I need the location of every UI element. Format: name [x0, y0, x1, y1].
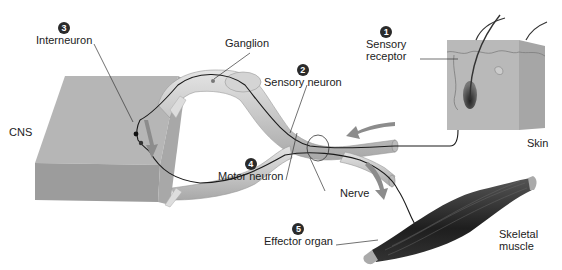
- label-skin: Skin: [527, 137, 548, 149]
- label-interneuron: 3 Interneuron: [36, 22, 92, 46]
- skin-block: [447, 15, 547, 130]
- label-sensory-neuron: 2 Sensory neuron: [264, 64, 342, 88]
- step-badge-1: 1: [380, 26, 392, 38]
- motor-neuron-text: Motor neuron: [218, 170, 283, 182]
- effector-organ-text: Effector organ: [264, 235, 333, 247]
- label-cns: CNS: [9, 126, 32, 138]
- ganglion-cell-body: [211, 79, 215, 83]
- label-ganglion: Ganglion: [225, 37, 269, 49]
- sensory-receptor-line2: receptor: [366, 50, 406, 62]
- label-skeletal-muscle: Skeletal muscle: [499, 228, 538, 252]
- label-sensory-receptor: 1 Sensory receptor: [366, 26, 406, 62]
- sensory-receptor-line1: Sensory: [366, 38, 406, 50]
- interneuron-text: Interneuron: [36, 34, 92, 46]
- step-badge-5: 5: [292, 223, 304, 235]
- sensory-neuron-text: Sensory neuron: [264, 76, 342, 88]
- label-nerve: Nerve: [340, 187, 369, 199]
- label-effector-organ: 5 Effector organ: [264, 223, 333, 247]
- step-badge-3: 3: [58, 22, 70, 34]
- skeletal-muscle-line1: Skeletal: [499, 228, 538, 240]
- synapse-dot: [134, 132, 139, 137]
- label-motor-neuron: 4 Motor neuron: [218, 158, 283, 182]
- skeletal-muscle-line2: muscle: [499, 240, 538, 252]
- step-badge-4: 4: [245, 158, 257, 170]
- synapse-dot: [139, 141, 143, 145]
- step-badge-2: 2: [297, 64, 309, 76]
